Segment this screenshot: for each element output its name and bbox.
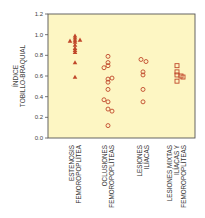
x-category-label: FEMOROPOPLÍTEAS	[107, 145, 115, 208]
x-category-label: LESIONES	[136, 145, 143, 177]
x-category-label: FEMOROPOPLÍTEA	[74, 144, 82, 203]
y-axis-title-line: TOBILLO-BRAQUIAL	[19, 44, 27, 107]
y-axis-title-line: ÍNDICE	[11, 64, 19, 87]
y-tick-label: 0.4	[35, 94, 44, 100]
y-tick-label: 0.8	[35, 52, 44, 58]
y-tick-label: 1.0	[35, 32, 44, 38]
chart: 0.00.20.40.60.81.01.2 ÍNDICETOBILLO-BRAQ…	[0, 0, 205, 218]
x-category-label: LESIONES MIXTAS	[166, 145, 173, 201]
y-tick-label: 0.0	[35, 135, 44, 141]
x-category-label: ILÍACAS	[142, 145, 150, 169]
x-axis-labels: ESTENOSISFEMOROPOPLÍTEAOCLUSIONESFEMOROP…	[68, 144, 188, 207]
y-axis-title: ÍNDICETOBILLO-BRAQUIAL	[11, 44, 27, 107]
y-tick-label: 0.6	[35, 73, 44, 79]
x-category-label: ESTENOSIS	[68, 145, 75, 181]
x-category-label: ILÍACAS Y	[172, 144, 180, 175]
x-category-label: OCLUSIONES	[101, 145, 108, 186]
y-tick-label: 1.2	[35, 11, 44, 17]
y-tick-label: 0.2	[35, 114, 44, 120]
x-category-label: FEMOROPOPLÍTEAS	[179, 145, 187, 208]
plot-area	[48, 14, 195, 138]
y-axis: 0.00.20.40.60.81.01.2	[35, 11, 48, 141]
